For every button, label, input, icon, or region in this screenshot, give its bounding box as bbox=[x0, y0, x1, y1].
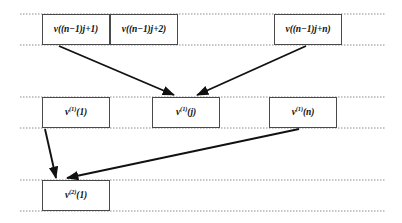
node-v-n1j-plus-1-label: v((n−1)j+1) bbox=[54, 25, 98, 35]
node-v-n1j-plus-n[interactable]: v((n−1)j+n) bbox=[274, 14, 342, 45]
node-v1-n-superscript: (1) bbox=[296, 105, 303, 112]
node-v-n1j-plus-2[interactable]: v((n−1)j+2) bbox=[110, 14, 178, 45]
node-v2-1-argument: (1) bbox=[76, 190, 87, 200]
diagram-canvas: v((n−1)j+1) v((n−1)j+2) v((n−1)j+n) v(1)… bbox=[0, 0, 402, 223]
arrow-input1-to-v1j bbox=[59, 46, 174, 95]
node-v1-1-label: v(1)(1) bbox=[65, 108, 87, 118]
arrow-v1n-to-v21 bbox=[67, 129, 299, 178]
node-v-n1j-plus-1[interactable]: v((n−1)j+1) bbox=[42, 14, 110, 45]
node-v1-n-argument: (n) bbox=[303, 107, 314, 117]
node-v2-1[interactable]: v(2)(1) bbox=[42, 180, 110, 211]
node-v1-n[interactable]: v(1)(n) bbox=[269, 97, 337, 128]
arrow-v11-to-v21 bbox=[45, 129, 56, 178]
node-v-n1j-plus-2-label: v((n−1)j+2) bbox=[122, 25, 166, 35]
node-v-n1j-plus-n-label: v((n−1)j+n) bbox=[286, 25, 331, 35]
node-v1-1[interactable]: v(1)(1) bbox=[42, 97, 110, 128]
node-v1-1-argument: (1) bbox=[76, 107, 87, 117]
node-v1-j[interactable]: v(1)(j) bbox=[152, 97, 220, 128]
arrow-inputn-to-v1j bbox=[197, 46, 306, 95]
node-v1-j-argument: (j) bbox=[187, 107, 196, 117]
node-v2-1-label: v(2)(1) bbox=[65, 191, 87, 201]
node-v1-n-label: v(1)(n) bbox=[292, 108, 315, 118]
node-v1-j-label: v(1)(j) bbox=[176, 108, 196, 118]
